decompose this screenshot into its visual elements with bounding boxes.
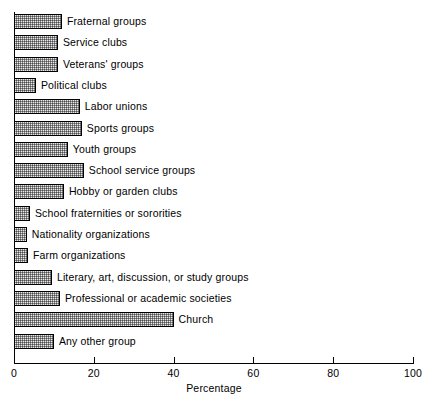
bar-label: Political clubs [36,80,107,91]
x-tick-label: 0 [11,367,17,379]
bar-chart: Fraternal groupsService clubsVeterans' g… [0,0,428,400]
x-tick-mark [253,357,254,364]
x-tick-mark [174,357,175,364]
bar-row: Church [14,312,213,327]
bar-row: Political clubs [14,78,107,93]
bar [14,206,30,221]
bar-row: Literary, art, discussion, or study grou… [14,270,249,285]
bar-row: Hobby or garden clubs [14,184,178,199]
bar-row: Service clubs [14,35,127,50]
bar-label: Farm organizations [28,250,126,261]
bar [14,163,84,178]
bar-label: School fraternities or sororities [30,208,182,219]
plot-area: Fraternal groupsService clubsVeterans' g… [14,12,413,357]
bar-row: School fraternities or sororities [14,206,182,221]
bar [14,35,58,50]
bar-label: Hobby or garden clubs [64,186,178,197]
bar [14,334,54,349]
x-tick-label: 60 [247,367,259,379]
x-tick-mark [94,357,95,364]
bar-row: Fraternal groups [14,14,146,29]
bar-label: Sports groups [82,123,154,134]
bar-label: Literary, art, discussion, or study grou… [52,272,249,283]
x-tick-label: 40 [168,367,180,379]
bar [14,291,60,306]
bar-row: Nationality organizations [14,227,150,242]
x-tick-mark [413,357,414,364]
bar [14,312,174,327]
bar-row: Farm organizations [14,248,126,263]
bar-row: Professional or academic societies [14,291,232,306]
bar-label: Professional or academic societies [60,293,232,304]
bar [14,142,68,157]
bar-label: Labor unions [80,101,148,112]
bar [14,227,27,242]
bar-label: Youth groups [68,144,136,155]
bar-label: Any other group [54,336,136,347]
bar-row: Youth groups [14,142,136,157]
x-axis-line [14,363,414,364]
x-tick-label: 100 [404,367,422,379]
bar-label: Veterans' groups [58,59,144,70]
bar-label: Church [174,314,214,325]
x-tick-label: 80 [327,367,339,379]
bar-label: Service clubs [58,37,127,48]
bar-row: Sports groups [14,121,154,136]
bar [14,184,64,199]
bar-row: School service groups [14,163,195,178]
bar [14,121,82,136]
bar [14,248,28,263]
bar-row: Any other group [14,334,136,349]
bar-label: Nationality organizations [27,229,150,240]
bar [14,57,58,72]
bar [14,78,36,93]
x-tick-label: 20 [88,367,100,379]
bar [14,14,62,29]
bar [14,99,80,114]
bar-label: School service groups [84,165,195,176]
bar-row: Labor unions [14,99,147,114]
x-tick-mark [333,357,334,364]
bar-label: Fraternal groups [62,16,146,27]
bar [14,270,52,285]
bar-row: Veterans' groups [14,57,144,72]
x-axis-title: Percentage [0,382,428,394]
